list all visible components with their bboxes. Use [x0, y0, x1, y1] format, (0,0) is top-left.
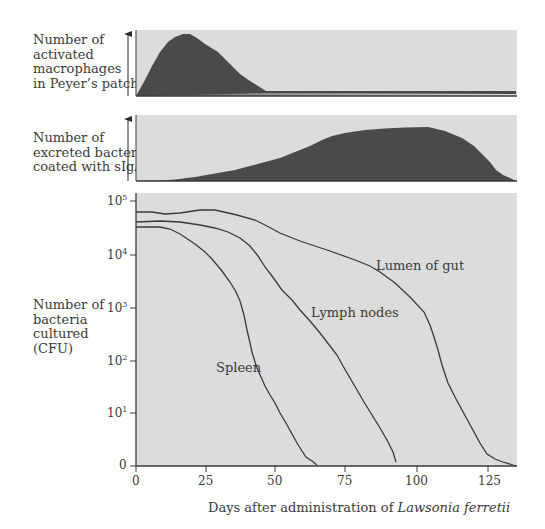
- ytick-0: 0: [119, 458, 127, 472]
- x-axis-label-text: Days after administration of: [208, 500, 398, 515]
- cfu-panel: [130, 193, 517, 472]
- series-label-lumen: Lumen of gut: [376, 259, 464, 274]
- series-label-lymph: Lymph nodes: [311, 306, 399, 321]
- ytick-base: 10: [107, 301, 122, 315]
- x-ticks: [136, 466, 488, 472]
- panel-background: [136, 193, 517, 466]
- ytick-base: 10: [107, 406, 122, 420]
- ytick-1e4: 104: [107, 247, 127, 262]
- xtick-125: 125: [478, 474, 501, 488]
- y-ticks: [130, 201, 136, 466]
- ytick-1e2: 102: [107, 353, 127, 368]
- ytick-base: 10: [107, 354, 122, 368]
- siga-panel: [128, 115, 517, 181]
- xtick-0: 0: [132, 474, 140, 488]
- macrophage-panel: [128, 30, 517, 96]
- xtick-50: 50: [267, 474, 282, 488]
- ytick-base: 10: [107, 194, 122, 208]
- ytick-exp: 2: [122, 353, 127, 362]
- x-axis-label-species: Lawsonia ferretii: [398, 500, 511, 515]
- ytick-base: 0: [119, 458, 127, 472]
- ytick-1e1: 101: [107, 405, 127, 420]
- ytick-exp: 1: [122, 405, 127, 414]
- ytick-exp: 5: [122, 193, 127, 202]
- ytick-1e5: 105: [107, 193, 127, 208]
- ytick-exp: 4: [122, 247, 127, 256]
- ytick-exp: 3: [122, 300, 127, 309]
- xtick-100: 100: [405, 474, 428, 488]
- ytick-1e3: 103: [107, 300, 127, 315]
- xtick-75: 75: [337, 474, 352, 488]
- xtick-25: 25: [198, 474, 213, 488]
- ytick-base: 10: [107, 248, 122, 262]
- series-label-spleen: Spleen: [216, 361, 261, 376]
